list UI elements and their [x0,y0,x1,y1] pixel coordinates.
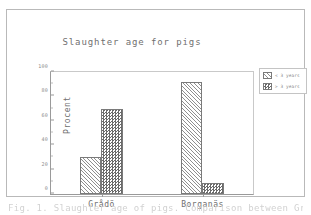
chart-legend: < 3 years> 3 years [259,68,307,94]
bar [80,157,101,194]
y-tick-minor-mark [51,132,53,133]
y-tick-mark [51,144,54,145]
bar [181,82,202,194]
bar [101,109,122,194]
y-tick-mark [51,95,54,96]
chart-title: Slaughter age for pigs [7,37,257,47]
bar [202,183,223,194]
y-tick-mark [51,71,54,72]
legend-label: < 3 years [275,73,300,78]
plot-area: Procent 020406080100 GrådöBorganäs [50,71,254,195]
legend-item: > 3 years [263,83,304,90]
y-tick-minor-mark [51,180,53,181]
legend-label: > 3 years [275,84,300,89]
y-tick-label: 40 [42,136,51,142]
figure-caption: Fig. 1. Slaughter age of pigs. Compariso… [8,203,303,213]
figure-frame: Slaughter age for pigs Procent 020406080… [6,9,305,197]
bar-group [80,72,123,194]
y-tick-mark [51,193,54,194]
legend-item: < 3 years [263,72,304,79]
figure-caption-strip: Fig. 1. Slaughter age of pigs. Compariso… [8,203,303,213]
y-tick-label: 20 [42,161,51,167]
y-tick-label: 0 [45,185,51,191]
y-axis-label: Procent [63,80,72,150]
figure-root: Slaughter age for pigs Procent 020406080… [0,0,311,215]
x-tick-mark [102,194,103,197]
y-tick-mark [51,168,54,169]
y-tick-mark [51,119,54,120]
y-tick-minor-mark [51,107,53,108]
legend-swatch [263,83,272,90]
bar-group [181,72,224,194]
x-tick-mark [203,194,204,197]
legend-swatch [263,72,272,79]
y-tick-label: 60 [42,112,51,118]
y-tick-minor-mark [51,83,53,84]
y-tick-label: 100 [38,63,51,69]
y-tick-label: 80 [42,87,51,93]
y-tick-minor-mark [51,156,53,157]
